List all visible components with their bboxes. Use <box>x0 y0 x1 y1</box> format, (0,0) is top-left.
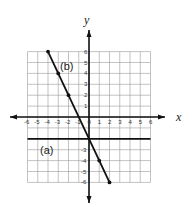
data-point <box>56 72 60 76</box>
x-tick-label: -5 <box>34 119 40 125</box>
line-b-label: (b) <box>60 60 73 72</box>
y-tick-label: -3 <box>81 147 87 153</box>
x-axis-arrow-left-icon <box>10 115 17 120</box>
y-axis-arrow-up-icon <box>87 30 92 37</box>
axes <box>10 30 165 203</box>
coordinate-plane: -6-5-4-3-2-10123456654321-3-4-5-6 x y (a… <box>0 0 194 207</box>
x-tick-label: -6 <box>24 119 30 125</box>
data-point <box>97 159 101 163</box>
x-tick-label: 5 <box>139 119 143 125</box>
y-tick-label: -6 <box>81 179 87 185</box>
x-axis-arrow-right-icon <box>158 115 165 120</box>
x-axis-label: x <box>175 110 182 124</box>
x-tick-label: -3 <box>55 119 61 125</box>
x-tick-label: -2 <box>65 119 71 125</box>
x-tick-label: 4 <box>129 119 133 125</box>
line-a-label: (a) <box>40 144 53 156</box>
y-tick-label: -5 <box>81 169 87 175</box>
x-tick-label: 0 <box>88 119 92 125</box>
x-tick-label: 1 <box>98 119 102 125</box>
data-point <box>67 93 71 97</box>
x-tick-label: 2 <box>108 119 112 125</box>
y-axis-arrow-down-icon <box>87 196 92 203</box>
data-point <box>46 50 50 54</box>
x-tick-label: -4 <box>45 119 51 125</box>
data-point <box>108 181 112 185</box>
x-tick-label: 3 <box>118 119 122 125</box>
y-tick-label: -4 <box>81 158 87 164</box>
y-axis-label: y <box>83 13 90 27</box>
x-tick-label: 6 <box>149 119 153 125</box>
